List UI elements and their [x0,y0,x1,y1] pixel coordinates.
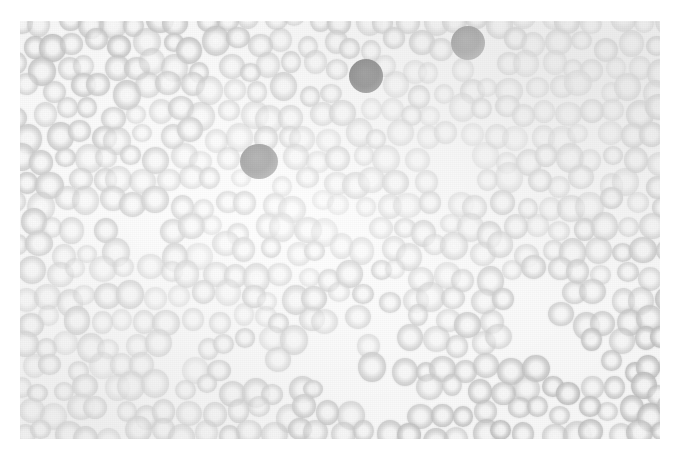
erythrocyte [20,73,38,94]
erythrocyte [126,105,146,124]
erythrocyte [651,422,662,439]
erythrocyte [155,71,181,95]
erythrocyte [502,126,528,152]
erythrocyte [614,73,641,101]
erythrocyte [601,350,622,371]
erythrocyte [132,124,153,143]
erythrocyte [20,256,46,284]
erythrocyte [647,152,662,177]
erythrocyte [604,376,625,398]
erythrocyte [656,240,662,262]
erythrocyte [269,28,292,52]
erythrocyte [485,324,512,350]
erythrocyte [55,148,76,168]
erythrocyte [383,27,406,49]
erythrocyte [281,51,301,73]
erythrocyte [440,232,467,259]
erythrocyte [382,170,409,195]
erythrocyte [196,76,223,105]
erythrocyte [120,145,141,165]
erythrocyte [639,213,662,239]
erythrocyte [77,97,97,119]
erythrocyte [597,402,618,421]
erythrocyte [431,404,454,427]
erythrocyte [548,302,574,326]
erythrocyte [113,257,134,277]
erythrocyte [603,146,623,165]
erythrocyte [527,396,548,417]
erythrocyte [446,335,469,357]
erythrocyte [125,416,152,439]
erythrocyte [57,97,78,118]
erythrocyte [345,305,372,330]
erythrocyte [492,288,514,310]
erythrocyte [354,145,375,166]
erythrocyte [472,142,499,169]
erythrocyte [627,192,650,214]
erythrocyte [580,99,603,123]
erythrocyte [168,285,190,307]
erythrocyte [267,263,292,286]
erythrocyte [495,162,523,193]
erythrocyte [38,354,61,375]
erythrocyte [92,311,112,333]
erythrocyte [629,237,656,263]
erythrocyte [261,422,287,439]
erythrocyte [571,31,592,50]
erythrocyte [397,423,420,439]
erythrocyte [655,21,662,36]
erythrocyte [226,27,249,48]
erythrocyte [578,419,603,439]
erythrocyte [369,217,393,239]
erythrocyte [379,292,401,314]
erythrocyte [328,282,350,303]
erythrocyte [304,50,327,74]
erythrocyte [444,427,468,439]
erythrocyte [383,71,409,98]
erythrocyte [502,260,523,279]
erythrocyte [549,406,570,426]
erythrocyte [419,191,441,214]
erythrocyte [199,167,220,189]
erythrocyte [283,21,305,26]
erythrocyte [141,186,169,213]
erythrocyte [434,121,457,144]
erythrocyte [601,99,624,121]
erythrocyte [646,36,662,56]
erythrocyte [568,165,594,189]
erythrocyte [535,144,557,167]
erythrocyte [296,167,319,188]
erythrocyte [617,262,639,283]
erythrocyte [385,259,405,279]
erythrocyte [60,33,83,55]
erythrocyte [325,146,350,171]
erythrocyte [73,285,95,306]
erythrocyte [358,352,386,382]
erythrocyte [579,279,605,304]
erythrocyte [356,197,377,217]
erythrocyte [59,217,84,243]
erythrocyte [600,187,623,209]
erythrocyte [513,50,539,78]
erythrocyte [477,78,497,97]
erythrocyte [327,194,349,216]
erythrocyte [361,98,382,120]
erythrocyte [533,100,555,124]
erythrocyte [393,193,421,219]
erythrocyte [137,254,164,279]
erythrocyte [85,28,108,50]
erythrocyte [490,420,511,439]
erythrocyte [213,334,234,354]
erythrocyte [111,309,132,331]
erythrocyte [473,353,499,378]
erythrocyte [53,331,78,355]
erythrocyte [619,30,645,57]
erythrocyte [397,324,424,351]
erythrocyte [626,420,653,439]
erythrocyte [521,255,546,278]
erythrocyte [270,72,297,101]
erythrocyte [283,144,309,170]
erythrocyte [96,428,121,439]
photomicrograph-figure [0,0,680,460]
segmented-cell-top-right [451,26,485,60]
